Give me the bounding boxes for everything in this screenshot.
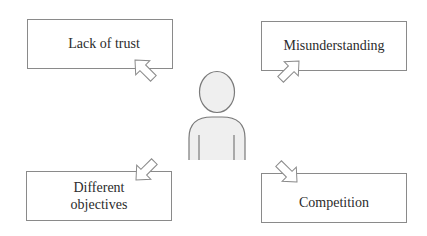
factor-box-misunderstanding: Misunderstanding	[261, 21, 407, 71]
factor-box-competition: Competition	[261, 173, 407, 223]
factor-box-lack-of-trust: Lack of trust	[27, 19, 173, 69]
factor-label: Lack of trust	[60, 35, 140, 54]
factor-label: Misunderstanding	[283, 37, 384, 56]
factor-label: Different objectives	[71, 179, 128, 213]
person-icon	[189, 72, 245, 161]
factor-box-different-objectives: Different objectives	[26, 171, 172, 221]
factor-label: Competition	[299, 186, 369, 211]
